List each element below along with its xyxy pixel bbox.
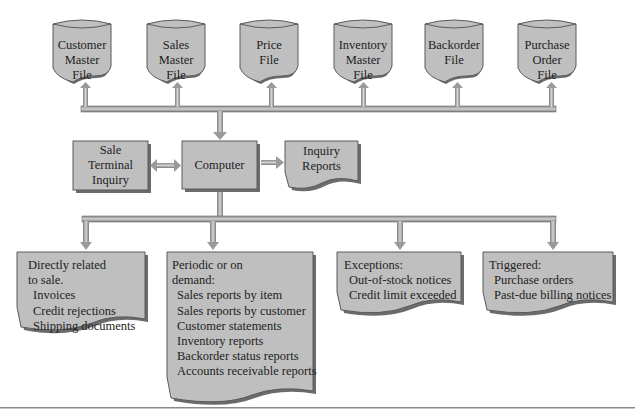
doc-item: Shipping documents (28, 319, 135, 334)
doc-item: Sales reports by customer (172, 304, 317, 319)
label-line: Backorder (425, 38, 483, 53)
doc-heading-line: to sale. (28, 273, 135, 288)
label-backorder-file: Backorder File (425, 38, 483, 68)
label-line: File (334, 68, 392, 83)
doc-heading-line: Directly related (28, 258, 135, 273)
label-line: File (518, 68, 576, 83)
label-line: File (53, 68, 111, 83)
label-purchase-order-file: Purchase Order File (518, 38, 576, 83)
text-triggered: Triggered: Purchase orders Past-due bill… (489, 258, 611, 304)
label-line: File (425, 53, 483, 68)
doc-item: Accounts receivable reports (172, 364, 317, 379)
doc-item: Credit rejections (28, 304, 135, 319)
file-cylinders (53, 20, 576, 84)
label-computer: Computer (182, 158, 257, 173)
doc-heading-line: Periodic or on (172, 258, 317, 273)
bottom-rule (0, 407, 635, 409)
label-line: Reports (285, 159, 358, 174)
label-line: Master (53, 53, 111, 68)
label-customer-master-file: Customer Master File (53, 38, 111, 83)
doc-item: Customer statements (172, 319, 317, 334)
label-line: Purchase (518, 38, 576, 53)
label-line: Order (518, 53, 576, 68)
text-periodic-or-on-demand: Periodic or on demand: Sales reports by … (172, 258, 317, 380)
doc-item: Inventory reports (172, 334, 317, 349)
doc-item: Invoices (28, 288, 135, 303)
top-bus-connectors (80, 82, 557, 140)
doc-item: Purchase orders (489, 273, 611, 288)
label-line: Price (240, 38, 298, 53)
label-line: Computer (182, 158, 257, 173)
label-line: Inquiry (73, 173, 148, 188)
label-line: Terminal (73, 158, 148, 173)
label-line: Sale (73, 143, 148, 158)
doc-item: Backorder status reports (172, 349, 317, 364)
label-line: Customer (53, 38, 111, 53)
label-line: Inventory (334, 38, 392, 53)
label-inquiry-reports: Inquiry Reports (285, 144, 358, 174)
doc-heading-line: demand: (172, 273, 317, 288)
label-line: Master (147, 53, 205, 68)
label-line: File (240, 53, 298, 68)
doc-item: Credit limit exceeded (344, 288, 457, 303)
doc-heading-line: Triggered: (489, 258, 611, 273)
label-line: Inquiry (285, 144, 358, 159)
label-line: Sales (147, 38, 205, 53)
doc-heading-line: Exceptions: (344, 258, 457, 273)
label-sales-master-file: Sales Master File (147, 38, 205, 83)
lower-bus-connectors (80, 192, 559, 250)
text-directly-related: Directly related to sale. Invoices Credi… (28, 258, 135, 334)
label-price-file: Price File (240, 38, 298, 68)
doc-item: Sales reports by item (172, 288, 317, 303)
label-line: File (147, 68, 205, 83)
label-sale-terminal-inquiry: Sale Terminal Inquiry (73, 143, 148, 188)
doc-item: Out-of-stock notices (344, 273, 457, 288)
doc-item: Past-due billing notices (489, 288, 611, 303)
label-line: Master (334, 53, 392, 68)
label-inventory-master-file: Inventory Master File (334, 38, 392, 83)
text-exceptions: Exceptions: Out-of-stock notices Credit … (344, 258, 457, 304)
